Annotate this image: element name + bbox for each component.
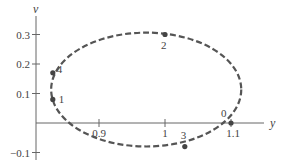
trajectory-point-0 (228, 120, 233, 125)
y-axis-label: y (269, 116, 276, 130)
trajectory-point-1 (50, 97, 55, 102)
v-axis-label: v (33, 2, 39, 16)
v-tick-label: −0.1 (10, 147, 30, 159)
trajectory-point-3 (182, 144, 187, 149)
trajectory-point-2 (162, 32, 167, 37)
point-label-2: 2 (161, 39, 167, 51)
phase-plot: 0.30.20.1−0.1 0.911.1 v y 01234 (0, 0, 284, 165)
point-label-0: 0 (221, 107, 227, 119)
y-tick-label: 1.1 (226, 127, 240, 139)
y-axis-ticks: 0.911.1 (92, 119, 240, 139)
y-tick-label: 1 (162, 127, 168, 139)
trajectory-point-4 (50, 70, 55, 75)
trajectory-curve (51, 33, 241, 147)
v-tick-label: 0.2 (16, 58, 30, 70)
v-tick-label: 0.1 (16, 88, 30, 100)
point-label-3: 3 (181, 129, 187, 141)
v-tick-label: 0.3 (16, 29, 30, 41)
point-label-4: 4 (57, 63, 63, 75)
point-label-1: 1 (59, 93, 65, 105)
